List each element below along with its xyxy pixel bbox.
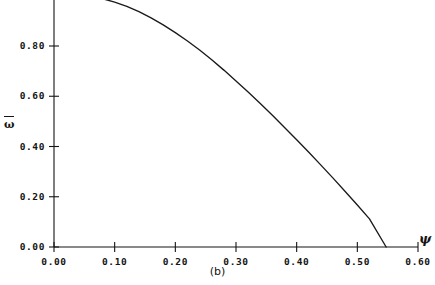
y-tick-label: 0.80	[1, 40, 45, 51]
y-tick-label: 0.40	[1, 141, 45, 152]
y-axis-symbol: ω	[4, 118, 14, 131]
panel-caption: (b)	[0, 265, 435, 278]
data-series-line	[78, 0, 386, 247]
figure-panel-b: 0.000.200.400.600.80 0.000.100.200.300.4…	[0, 0, 435, 285]
y-tick-label: 0.60	[1, 90, 45, 101]
x-axis-title: ψ	[419, 231, 431, 246]
omega-overbar	[4, 116, 14, 117]
y-tick-label: 0.20	[1, 191, 45, 202]
chart-plot-area	[0, 0, 435, 285]
x-axis-symbol: ψ	[419, 231, 431, 246]
y-axis-title: ω	[4, 116, 14, 131]
y-tick-label: 0.00	[1, 241, 45, 252]
